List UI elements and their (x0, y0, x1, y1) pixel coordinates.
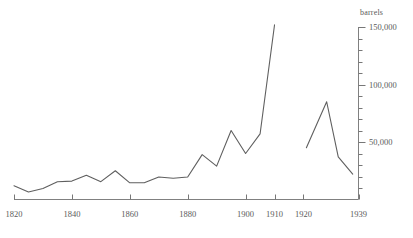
axis-lines (14, 27, 359, 200)
y-axis-tick-label: 150,000 (369, 22, 397, 32)
y-axis-tick-label: 100,000 (369, 80, 397, 90)
y-axis-ticks (359, 28, 366, 189)
x-axis-tick-label: 1920 (295, 209, 312, 219)
y-axis-tick-label: 50,000 (369, 137, 392, 147)
data-series-group (14, 25, 353, 192)
x-axis-tick-label: 1880 (179, 209, 196, 219)
data-line-pre-war (14, 25, 275, 192)
x-axis-tick-label: 1939 (350, 209, 367, 219)
data-line-post-war (306, 102, 352, 174)
x-axis-tick-label: 1900 (237, 209, 254, 219)
line-chart-plot (0, 0, 413, 238)
chart-figure: barrels 50,000100,000150,000 18201840186… (0, 0, 413, 238)
x-axis-tick-label: 1840 (63, 209, 80, 219)
x-axis-tick-label: 1820 (6, 209, 23, 219)
x-axis-tick-label: 1860 (121, 209, 138, 219)
x-axis-ticks (15, 195, 360, 200)
x-axis-tick-label: 1910 (266, 209, 283, 219)
y-axis-title: barrels (360, 8, 383, 17)
